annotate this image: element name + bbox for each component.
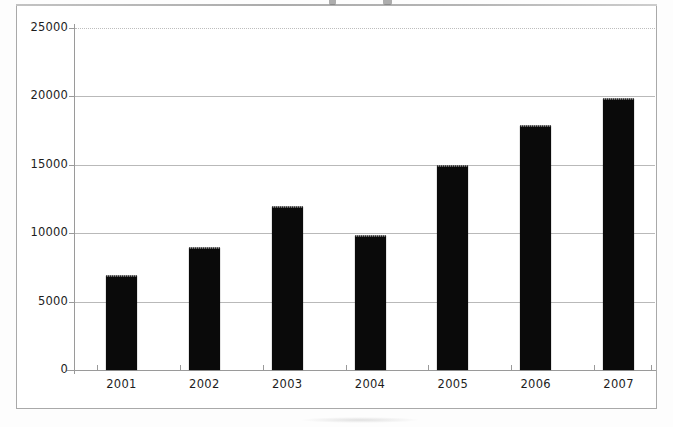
bar-top-edge — [437, 165, 468, 167]
bar-2001 — [106, 276, 137, 370]
x-axis-tick-label-2006: 2006 — [506, 377, 566, 391]
bar-top-edge — [189, 247, 220, 249]
x-axis-tick-label-2007: 2007 — [589, 377, 649, 391]
scan-artifact-smudge — [300, 417, 420, 423]
y-axis-tick-label: 5000 — [2, 296, 68, 308]
x-axis-tick-label-2002: 2002 — [174, 377, 234, 391]
chart-screenshot: 0500010000150002000025000 20012002200320… — [0, 0, 673, 427]
y-axis-tick — [69, 370, 74, 371]
bar-2004 — [355, 236, 386, 370]
y-axis-tick — [69, 302, 74, 303]
bar-top-edge — [355, 235, 386, 237]
gridline-25000 — [75, 28, 655, 29]
scan-artifact-glyph — [329, 0, 336, 5]
x-axis-tick-label-2001: 2001 — [91, 377, 151, 391]
bar-2005 — [437, 166, 468, 370]
y-axis-tick-label: 20000 — [2, 90, 68, 102]
y-axis-tick-label: 25000 — [2, 22, 68, 34]
x-axis-tick — [651, 365, 652, 370]
x-axis-tick — [511, 365, 512, 370]
x-axis-tick — [346, 365, 347, 370]
x-axis-tick — [97, 365, 98, 370]
y-axis-tick-label: 0 — [2, 364, 68, 376]
bar-top-edge — [520, 125, 551, 127]
y-axis-labels: 0500010000150002000025000 — [0, 0, 68, 427]
plot-area — [75, 28, 655, 370]
bar-top-edge — [272, 206, 303, 208]
bar-2006 — [520, 126, 551, 370]
x-axis-tick — [594, 365, 595, 370]
x-axis-tick — [263, 365, 264, 370]
bar-2003 — [272, 207, 303, 370]
y-axis-tick — [69, 96, 74, 97]
bar-top-edge — [106, 275, 137, 277]
y-axis-tick — [69, 233, 74, 234]
x-axis-tick-label-2003: 2003 — [257, 377, 317, 391]
scan-artifact-glyph — [383, 0, 392, 5]
y-axis-tick-label: 10000 — [2, 227, 68, 239]
x-axis-tick-label-2004: 2004 — [340, 377, 400, 391]
y-axis-tick-label: 15000 — [2, 159, 68, 171]
gridline-20000 — [75, 96, 655, 97]
y-axis-tick — [69, 165, 74, 166]
gridline-15000 — [75, 165, 655, 166]
bar-top-edge — [603, 98, 634, 100]
x-axis-line — [67, 370, 656, 371]
bar-2002 — [189, 248, 220, 370]
bar-2007 — [603, 99, 634, 370]
x-axis-tick-label-2005: 2005 — [423, 377, 483, 391]
x-axis-tick — [180, 365, 181, 370]
y-axis-tick — [69, 28, 74, 29]
x-axis-tick — [428, 365, 429, 370]
